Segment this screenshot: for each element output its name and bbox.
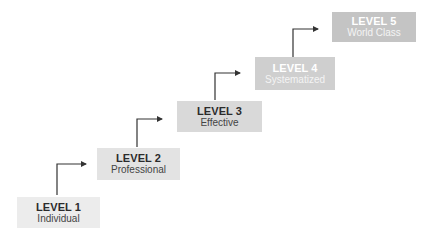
arrow-3-to-4 xyxy=(215,73,240,100)
level-4-title: LEVEL 4 xyxy=(272,63,317,74)
level-5-title: LEVEL 5 xyxy=(351,16,396,27)
level-4-subtitle: Systematized xyxy=(265,75,325,85)
arrow-1-to-2 xyxy=(57,164,86,195)
level-5-box: LEVEL 5 World Class xyxy=(332,12,416,42)
staircase-diagram: LEVEL 1 Individual LEVEL 2 Professional … xyxy=(0,0,438,238)
level-5-subtitle: World Class xyxy=(347,28,401,38)
level-3-subtitle: Effective xyxy=(200,118,238,128)
level-1-box: LEVEL 1 Individual xyxy=(17,197,100,228)
level-1-title: LEVEL 1 xyxy=(36,202,81,213)
arrow-4-to-5 xyxy=(293,29,318,57)
level-3-title: LEVEL 3 xyxy=(197,106,242,117)
level-3-box: LEVEL 3 Effective xyxy=(177,101,262,132)
level-1-subtitle: Individual xyxy=(37,214,79,224)
arrow-2-to-3 xyxy=(137,119,162,147)
level-2-subtitle: Professional xyxy=(111,165,166,175)
level-2-box: LEVEL 2 Professional xyxy=(97,148,180,180)
level-4-box: LEVEL 4 Systematized xyxy=(255,57,335,90)
level-2-title: LEVEL 2 xyxy=(116,153,161,164)
